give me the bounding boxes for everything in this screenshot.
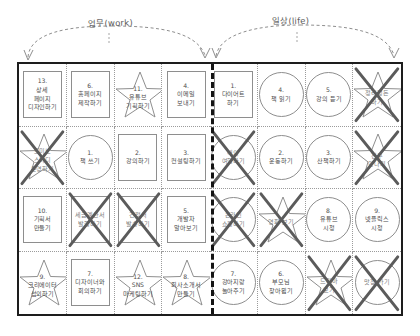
work-life-divider xyxy=(211,64,214,314)
task-cell[interactable]: 12. SNS 마케팅하기 xyxy=(115,252,163,315)
task-label: 11. 유튜브 기획하기 xyxy=(125,85,151,111)
star-shape: 도미노 스터디 운영하기 xyxy=(19,132,66,182)
task-cell[interactable]: 10. 기획서 만들기 xyxy=(19,189,67,252)
star-shape: 정리정돈 하기 xyxy=(353,70,401,120)
task-cell[interactable]: 11. 유튜브 기획하기 xyxy=(115,64,163,127)
task-cell[interactable]: 드라마 보기 xyxy=(306,252,354,315)
task-cell[interactable]: 6. 홈페이지 제작하기 xyxy=(67,64,115,127)
task-label: 6. 부모님 찾아뵙기 xyxy=(268,270,294,296)
task-cell[interactable]: 8. 유튜브 시청 xyxy=(306,189,354,252)
task-cell[interactable]: 2. 운동하기 xyxy=(258,127,306,190)
task-cell[interactable]: 4. 책 읽기 xyxy=(258,64,306,127)
star-shape: 12. SNS 마케팅하기 xyxy=(115,258,162,308)
task-cell[interactable]: 6. 부모님 찾아뵙기 xyxy=(258,252,306,315)
task-cell[interactable]: 13. 상세 페이지 디자인하기 xyxy=(19,64,67,127)
circle-shape: 해외 여행하기 xyxy=(211,135,256,180)
task-label: 정리정돈 하기 xyxy=(364,89,390,106)
square-shape: 4. 이메일 보내기 xyxy=(167,71,206,118)
task-cell[interactable]: 9. 크리에이터 섭외하기 xyxy=(19,252,67,315)
task-cell[interactable]: 3. 컨설팅하기 xyxy=(162,127,210,190)
task-label: 2. 운동하기 xyxy=(268,149,294,166)
circle-shape: 5. 강의 듣기 xyxy=(306,72,351,117)
task-label: 맛집 가기 xyxy=(363,278,390,287)
circle-shape: 3. 산책하기 xyxy=(306,135,351,180)
circle-shape: 8. 유튜브 시청 xyxy=(306,197,351,242)
task-label: 영화 보기 xyxy=(267,218,294,227)
task-label: 1. 다이어트 하기 xyxy=(221,82,247,108)
task-cell[interactable]: 견적서 발송하기 xyxy=(115,189,163,252)
square-shape: 6. 홈페이지 제작하기 xyxy=(71,71,110,118)
task-cell[interactable]: 7. 강아지랑 놀아주기 xyxy=(210,252,258,315)
task-label: 견적서 발송하기 xyxy=(125,211,151,228)
circle-shape: 맛집 가기 xyxy=(355,260,400,305)
task-label: 세금계산서 발행하기 xyxy=(74,211,106,228)
square-shape: 5. 개발자 알아보기 xyxy=(167,196,206,243)
task-cell[interactable]: 영화 보기 xyxy=(258,189,306,252)
task-label: 5. 개발자 알아보기 xyxy=(173,207,199,233)
square-shape: 3. 컨설팅하기 xyxy=(167,134,206,181)
circle-shape: 1. 책 쓰기 xyxy=(68,135,113,180)
task-cell[interactable]: 5. 개발자 알아보기 xyxy=(162,189,210,252)
circle-shape: 7. 강아지랑 놀아주기 xyxy=(211,260,256,305)
star-shape: 11. 유튜브 기획하기 xyxy=(115,70,162,120)
circle-shape: 2. 운동하기 xyxy=(259,135,304,180)
annotation-arrows xyxy=(0,0,420,70)
task-cell[interactable]: 온라인 쇼핑하기 xyxy=(210,189,258,252)
task-label: 드라마 보기 xyxy=(319,277,339,294)
task-cell[interactable]: 도미노 스터디 운영하기 xyxy=(19,127,67,190)
square-shape: 세금계산서 발행하기 xyxy=(71,196,110,243)
star-shape: 친구 만나기 xyxy=(353,132,401,182)
task-grid: 13. 상세 페이지 디자인하기6. 홈페이지 제작하기11. 유튜브 기획하기… xyxy=(19,64,401,314)
task-cell[interactable]: 2. 강의하기 xyxy=(115,127,163,190)
task-label: 3. 컨설팅하기 xyxy=(170,149,202,166)
task-cell[interactable]: 1. 다이어트 하기 xyxy=(210,64,258,127)
square-shape: 1. 다이어트 하기 xyxy=(214,71,253,118)
square-shape: 견적서 발송하기 xyxy=(118,196,157,243)
task-cell[interactable]: 4. 이메일 보내기 xyxy=(162,64,210,127)
task-label: 4. 책 읽기 xyxy=(270,86,292,103)
task-label: 온라인 쇼핑하기 xyxy=(221,211,247,228)
task-label: 친구 만나기 xyxy=(367,152,387,169)
task-cell[interactable]: 1. 책 쓰기 xyxy=(67,127,115,190)
task-label: 9. 넷플릭스 시청 xyxy=(364,207,390,233)
task-cell[interactable]: 정리정돈 하기 xyxy=(353,64,401,127)
task-label: 해외 여행하기 xyxy=(221,149,247,166)
star-shape: 9. 크리에이터 섭외하기 xyxy=(19,258,66,308)
task-cell[interactable]: 3. 산책하기 xyxy=(306,127,354,190)
task-cell[interactable]: 해외 여행하기 xyxy=(210,127,258,190)
task-label: 8. 유튜브 시청 xyxy=(319,207,339,233)
task-cell[interactable]: 8. 회사소개서 만들기 xyxy=(162,252,210,315)
life-group-label: 일상(life) xyxy=(272,14,309,27)
task-label: 3. 산책하기 xyxy=(316,149,342,166)
task-cell[interactable]: 친구 만나기 xyxy=(353,127,401,190)
task-cell[interactable]: 맛집 가기 xyxy=(353,252,401,315)
task-cell[interactable]: 세금계산서 발행하기 xyxy=(67,189,115,252)
star-shape: 영화 보기 xyxy=(258,195,305,245)
square-shape: 13. 상세 페이지 디자인하기 xyxy=(23,71,62,118)
work-group-label: 업무(work) xyxy=(88,15,133,28)
circle-shape: 온라인 쇼핑하기 xyxy=(211,197,256,242)
task-label: 13. 상세 페이지 디자인하기 xyxy=(27,77,59,112)
task-label: 7. 디자이너와 회의하기 xyxy=(74,270,106,296)
task-label: 9. 크리에이터 섭외하기 xyxy=(27,273,59,299)
task-label: 8. 회사소개서 만들기 xyxy=(170,273,202,299)
task-label: 7. 강아지랑 놀아주기 xyxy=(221,270,247,296)
task-cell[interactable]: 9. 넷플릭스 시청 xyxy=(353,189,401,252)
task-label: 도미노 스터디 운영하기 xyxy=(30,147,56,173)
square-shape: 10. 기획서 만들기 xyxy=(23,196,62,243)
star-shape: 8. 회사소개서 만들기 xyxy=(162,258,210,308)
task-cell[interactable]: 7. 디자이너와 회의하기 xyxy=(67,252,115,315)
task-label: 12. SNS 마케팅하기 xyxy=(122,273,154,299)
square-shape: 2. 강의하기 xyxy=(118,134,157,181)
annotation-band: 업무(work) 일상(life) xyxy=(0,0,420,64)
task-label: 5. 강의 듣기 xyxy=(315,86,342,103)
task-label: 2. 강의하기 xyxy=(125,149,151,166)
task-label: 6. 홈페이지 제작하기 xyxy=(77,82,103,108)
circle-shape: 6. 부모님 찾아뵙기 xyxy=(259,260,304,305)
task-grid-board: 13. 상세 페이지 디자인하기6. 홈페이지 제작하기11. 유튜브 기획하기… xyxy=(17,62,403,316)
task-label: 4. 이메일 보내기 xyxy=(176,82,196,108)
task-cell[interactable]: 5. 강의 듣기 xyxy=(306,64,354,127)
circle-shape: 9. 넷플릭스 시청 xyxy=(355,197,400,242)
task-label: 1. 책 쓰기 xyxy=(79,149,101,166)
star-shape: 드라마 보기 xyxy=(306,258,353,308)
